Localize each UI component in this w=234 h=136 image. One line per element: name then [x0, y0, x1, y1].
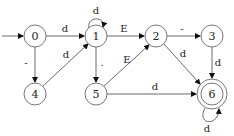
svg-text:0: 0	[32, 30, 39, 43]
automaton-diagram: d - d d E . E d - d d d	[0, 0, 234, 136]
svg-text:-: -	[24, 57, 27, 68]
edge-0-4: -	[24, 47, 35, 82]
svg-text:E: E	[120, 23, 127, 34]
state-1: 1	[85, 25, 107, 47]
svg-text:4: 4	[32, 88, 39, 101]
svg-text:3: 3	[209, 30, 216, 43]
state-4: 4	[24, 83, 46, 105]
edge-2-3: -	[167, 23, 200, 36]
edge-1-5: .	[96, 47, 104, 82]
svg-text:6: 6	[209, 88, 216, 101]
edge-6-6-loop: d	[203, 108, 219, 134]
edge-5-2: E	[104, 45, 149, 86]
state-2: 2	[145, 25, 167, 47]
svg-text:.: .	[100, 57, 103, 68]
svg-text:5: 5	[93, 88, 100, 101]
edge-5-6: d	[107, 81, 196, 94]
state-0: 0	[24, 25, 46, 47]
svg-text:d: d	[180, 48, 187, 59]
svg-text:d: d	[204, 123, 211, 134]
svg-text:d: d	[152, 81, 159, 92]
edge-3-6: d	[212, 47, 222, 78]
svg-text:d: d	[93, 5, 100, 16]
svg-text:2: 2	[153, 30, 160, 43]
edge-1-1-loop: d	[89, 5, 104, 28]
edge-1-2: E	[107, 23, 144, 36]
edge-2-6: d	[164, 44, 200, 84]
edge-4-1: d	[43, 44, 88, 86]
edge-0-1: d	[46, 23, 84, 36]
svg-text:E: E	[123, 54, 130, 65]
state-5: 5	[85, 83, 107, 105]
svg-text:1: 1	[93, 30, 100, 43]
state-6-accepting: 6	[197, 79, 227, 109]
svg-text:d: d	[62, 23, 69, 34]
svg-text:d: d	[63, 49, 70, 60]
state-3: 3	[201, 25, 223, 47]
svg-text:-: -	[180, 23, 183, 34]
svg-text:d: d	[215, 57, 222, 68]
